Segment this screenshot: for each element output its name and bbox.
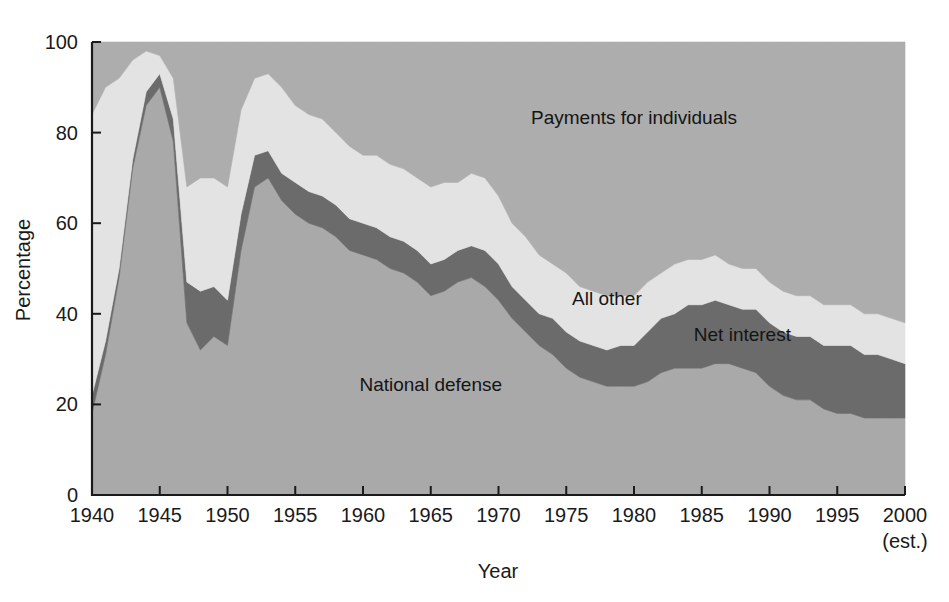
annotation-national-defense: National defense [359,374,502,395]
y-tick-label-100: 100 [45,31,78,53]
x-tick-label-1985: 1985 [680,504,725,526]
x-tick-label-1995: 1995 [815,504,860,526]
x-tick-label-1980: 1980 [612,504,657,526]
stacked-area-chart: 0204060801001940194519501955196019651970… [0,0,949,602]
x-tick-label-1965: 1965 [409,504,454,526]
x-tick-label-1970: 1970 [476,504,521,526]
x-tick-label-1960: 1960 [341,504,386,526]
x-tick-label-2000: 2000 [883,504,928,526]
x-tick-label-1940: 1940 [70,504,115,526]
x-tick-label-1950: 1950 [205,504,250,526]
y-tick-label-0: 0 [67,484,78,506]
x-tick-label-1955: 1955 [273,504,318,526]
x-tick-label-1975: 1975 [544,504,589,526]
x-axis-estimate-note: (est.) [882,530,928,552]
annotation-payments-for-individuals: Payments for individuals [531,107,737,128]
y-tick-label-20: 20 [56,393,78,415]
y-tick-label-80: 80 [56,122,78,144]
y-axis-title: Percentage [12,219,34,321]
x-axis-title: Year [478,560,519,582]
annotation-all-other: All other [572,288,642,309]
y-tick-label-40: 40 [56,303,78,325]
area-series-group [92,42,905,495]
annotation-net-interest: Net interest [694,324,792,345]
chart-canvas: 0204060801001940194519501955196019651970… [0,0,949,602]
x-tick-label-1945: 1945 [138,504,183,526]
y-tick-label-60: 60 [56,212,78,234]
x-tick-label-1990: 1990 [747,504,792,526]
